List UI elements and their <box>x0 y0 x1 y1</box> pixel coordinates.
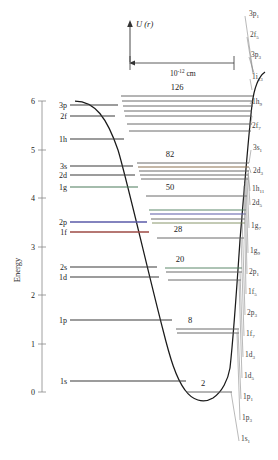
so-label-1p1-2: 1p1 <box>243 392 253 402</box>
magic-number-82: 82 <box>166 149 175 159</box>
level-label-1p: 1p <box>59 316 67 325</box>
so-label-1f7-2: 1f7 <box>246 329 255 339</box>
so-label-2f5-2: 2f5 <box>250 30 259 40</box>
so-label-2p1-2: 2p1 <box>249 267 259 277</box>
scale-bar-label: 10-12 cm <box>170 68 196 78</box>
potential-axis-label: U (r) <box>136 19 153 29</box>
level-label-1h: 1h <box>59 135 67 144</box>
tick-label-1: 1 <box>31 340 35 349</box>
scale-bar-unit: cm <box>186 69 195 78</box>
so-label-1h9-2: 1h9 <box>252 97 262 107</box>
energy-axis-label: Energy <box>12 257 22 282</box>
magic-number-126: 126 <box>171 82 184 92</box>
so-label-2p3-2: 2p3 <box>247 308 257 318</box>
so-label-3p3-2: 3p3 <box>251 50 261 60</box>
so-label-1p3-2: 1p3 <box>242 413 252 423</box>
potential-axis-arrow <box>127 20 133 62</box>
tick-label-6: 6 <box>31 97 35 106</box>
level-label-1g: 1g <box>59 183 67 192</box>
magic-number-50: 50 <box>166 182 175 192</box>
magic-number-28: 28 <box>174 224 183 234</box>
svg-text:10-12 cm: 10-12 cm <box>170 68 196 78</box>
so-label-2d3-2: 2d3 <box>253 166 263 176</box>
so-label-1g9-2: 1g9 <box>250 246 260 256</box>
potential-well-curve <box>75 72 265 401</box>
so-label-1d3-2: 1d3 <box>245 350 255 360</box>
level-label-2s: 2s <box>60 263 67 272</box>
so-label-1d5-2: 1d5 <box>244 371 254 381</box>
magic-number-2: 2 <box>201 378 205 388</box>
so-label-1h11-2: 1h11 <box>252 184 265 194</box>
level-label-3s: 3s <box>60 162 67 171</box>
so-label-2f7-2: 2f7 <box>252 121 261 131</box>
harmonic-level-labels: 3p 2f 1h 3s 2d 1g 2p 1f 2s 1d 1p 1s <box>59 101 67 386</box>
so-label-3p1-2: 3p1 <box>249 9 259 19</box>
level-label-2d: 2d <box>59 171 67 180</box>
magic-numbers: 126 82 50 28 20 8 2 <box>166 82 205 388</box>
energy-axis-tick-labels: 6 5 4 3 2 1 0 <box>31 97 35 397</box>
so-label-1i13-2: 1i13 <box>252 72 263 82</box>
so-label-1s1-2: 1s1 <box>241 434 251 444</box>
tick-label-4: 4 <box>31 194 35 203</box>
tick-label-5: 5 <box>31 146 35 155</box>
level-label-1s: 1s <box>60 377 67 386</box>
tick-label-3: 3 <box>31 243 35 252</box>
harmonic-levels <box>70 105 186 381</box>
tick-label-2: 2 <box>31 291 35 300</box>
so-label-2d5-2: 2d5 <box>252 198 262 208</box>
energy-axis <box>38 101 46 392</box>
so-label-1f5-2: 1f5 <box>248 287 257 297</box>
magic-number-8: 8 <box>188 315 192 325</box>
spin-orbit-level-lines <box>121 96 253 392</box>
so-label-3s1-2: 3s1 <box>253 143 263 153</box>
level-label-1f: 1f <box>60 228 67 237</box>
diagram-canvas: 6 5 4 3 2 1 0 Energy U (r) 10-12 cm <box>0 0 278 460</box>
level-label-2p: 2p <box>59 218 67 227</box>
shell-model-figure: 6 5 4 3 2 1 0 Energy U (r) 10-12 cm <box>0 0 278 460</box>
level-label-2f: 2f <box>60 112 67 121</box>
tick-label-0: 0 <box>31 388 35 397</box>
so-label-3p1-2-sub: 1 <box>256 14 259 19</box>
level-label-1d: 1d <box>59 273 67 282</box>
magic-number-20: 20 <box>176 254 185 264</box>
so-label-1g7-2: 1g7 <box>251 221 261 231</box>
level-label-3p: 3p <box>59 101 67 110</box>
